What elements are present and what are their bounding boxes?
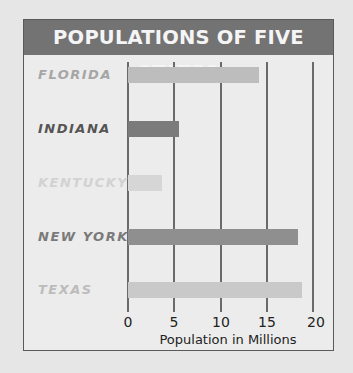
x-tick-5: 5 xyxy=(170,314,179,330)
category-label-new-york: NEW YORK xyxy=(38,229,129,245)
x-axis-title: Population in Millions xyxy=(128,332,328,347)
chart-frame: POPULATIONS OF FIVE STATES FLORIDA INDIA… xyxy=(23,19,334,351)
x-tick-10: 10 xyxy=(212,314,230,330)
category-label-florida: FLORIDA xyxy=(38,67,112,83)
x-tick-0: 0 xyxy=(124,314,133,330)
gridline-15 xyxy=(266,62,268,312)
bar-indiana xyxy=(128,121,179,137)
bar-florida xyxy=(128,67,259,83)
x-tick-20: 20 xyxy=(307,314,325,330)
bar-kentucky xyxy=(128,175,162,191)
category-label-texas: TEXAS xyxy=(38,282,93,298)
plot-area: FLORIDA INDIANA KENTUCKY NEW YORK TEXAS … xyxy=(24,20,333,350)
category-label-kentucky: KENTUCKY xyxy=(38,175,128,191)
gridline-20 xyxy=(312,62,314,312)
bar-new-york xyxy=(128,229,298,245)
x-tick-15: 15 xyxy=(258,314,276,330)
category-label-indiana: INDIANA xyxy=(38,121,111,137)
gridline-5 xyxy=(173,62,175,312)
gridline-10 xyxy=(220,62,222,312)
bar-texas xyxy=(128,282,302,298)
